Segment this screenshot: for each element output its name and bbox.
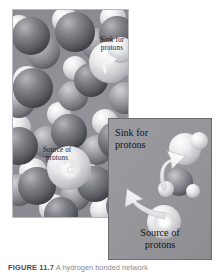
figure-caption-text: A hydrogen bonded network: [56, 263, 148, 272]
proton-transfer-detail-inset: Sink for protons Source of protons: [108, 118, 212, 260]
figure-container: Sink for protons Source of protons: [0, 0, 219, 274]
figure-caption: FIGURE 11.7 A hydrogen bonded network: [8, 263, 216, 272]
figure-caption-number: FIGURE 11.7: [8, 263, 54, 272]
inset-graphic: [109, 119, 211, 259]
